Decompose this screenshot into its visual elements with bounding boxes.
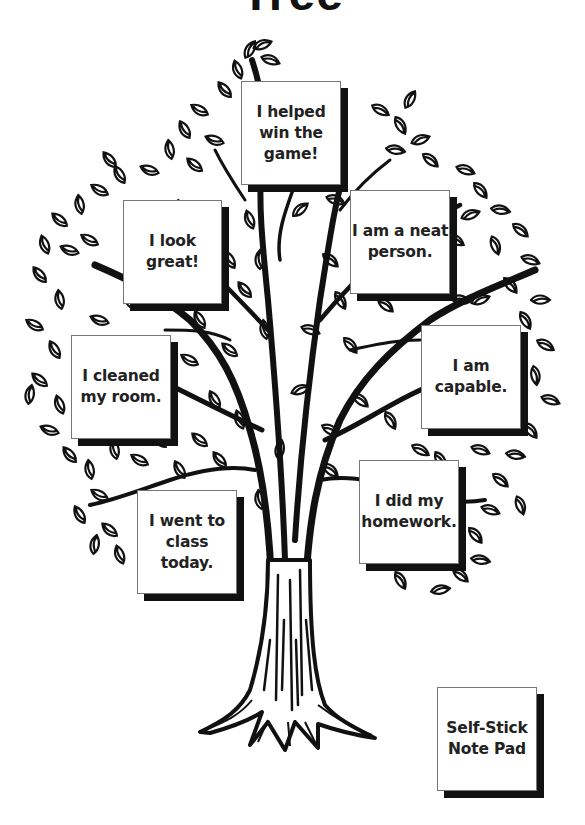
leaf-icon xyxy=(189,102,210,119)
leaf-icon xyxy=(402,89,419,110)
leaf-icon xyxy=(392,570,409,591)
leaf-icon xyxy=(74,195,85,215)
leaf-icon xyxy=(79,232,100,249)
leaf-icon xyxy=(260,53,281,67)
leaf-icon xyxy=(511,221,531,240)
leaf-icon xyxy=(230,59,244,80)
leaf-icon xyxy=(221,249,238,270)
leaf-icon xyxy=(52,394,66,415)
sticky-note-text: I am a neat person. xyxy=(352,221,448,263)
leaf-icon xyxy=(410,132,431,146)
leaf-icon xyxy=(39,423,60,437)
leaf-icon xyxy=(471,180,490,200)
sticky-note-look-great: I look great! xyxy=(123,200,222,304)
leaf-icon xyxy=(46,339,63,360)
sticky-note-went-to-class: I went to class today. xyxy=(137,490,237,594)
leaf-icon xyxy=(184,156,204,175)
leaf-icon xyxy=(392,115,409,136)
leaf-icon xyxy=(71,504,88,525)
leaf-icon xyxy=(100,150,119,170)
leaf-icon xyxy=(505,449,525,460)
leaf-icon xyxy=(470,443,491,457)
leaf-icon xyxy=(215,80,234,100)
leaf-icon xyxy=(54,290,65,310)
leaf-icon xyxy=(490,204,510,215)
sticky-note-text: I am capable. xyxy=(435,356,507,398)
leaf-icon xyxy=(204,133,225,147)
leaf-icon xyxy=(520,253,541,267)
leaf-icon xyxy=(540,393,561,407)
sticky-note-cleaned-room: I cleaned my room. xyxy=(71,335,171,439)
leaf-icon xyxy=(24,384,35,404)
leaf-icon xyxy=(49,211,69,230)
leaf-icon xyxy=(89,182,110,199)
self-stick-note-pad-legend: Self-Stick Note Pad xyxy=(437,687,537,791)
leaf-icon xyxy=(164,140,175,160)
leaf-icon xyxy=(341,335,360,355)
leaf-icon xyxy=(491,471,511,490)
leaf-icon xyxy=(89,313,110,327)
leaf-icon xyxy=(521,420,540,440)
sticky-note-text: I went to class today. xyxy=(138,511,236,574)
leaf-icon xyxy=(376,296,396,315)
leaf-icon xyxy=(242,209,256,230)
leaf-icon xyxy=(513,495,527,516)
leaf-icon xyxy=(129,452,150,469)
leaf-icon xyxy=(179,352,200,369)
leaf-icon xyxy=(410,442,431,459)
leaf-icon xyxy=(99,521,119,540)
leaf-icon xyxy=(290,200,310,219)
leaf-icon xyxy=(252,37,273,51)
sticky-note-helped-win: I helped win the game! xyxy=(241,81,341,185)
leaf-icon xyxy=(60,445,79,465)
leaf-icon xyxy=(59,243,80,257)
leaf-icon xyxy=(112,544,126,565)
leaf-icon xyxy=(488,235,502,256)
leaf-icon xyxy=(24,317,45,334)
leaf-icon xyxy=(470,554,490,565)
sticky-note-homework: I did my homework. xyxy=(359,460,459,564)
leaf-icon xyxy=(535,337,556,354)
leaf-icon xyxy=(455,163,476,177)
leaf-icon xyxy=(460,207,481,221)
leaf-icon xyxy=(139,163,160,177)
sticky-note-text: I helped win the game! xyxy=(256,102,325,165)
leaf-icon xyxy=(531,296,550,304)
leaf-icon xyxy=(421,151,441,170)
sticky-note-text: I cleaned my room. xyxy=(80,366,161,408)
leaf-icon xyxy=(89,534,100,554)
leaf-icon xyxy=(382,410,399,431)
leaf-icon xyxy=(385,144,405,155)
leaf-icon xyxy=(176,119,193,140)
leaf-icon xyxy=(480,503,501,517)
leaf-icon xyxy=(430,584,450,595)
leaf-icon xyxy=(466,525,485,545)
leaf-icon xyxy=(30,265,49,285)
leaf-icon xyxy=(370,102,391,119)
leaf-icon xyxy=(530,365,541,385)
leaf-icon xyxy=(189,431,209,450)
leaf-icon xyxy=(109,440,120,460)
leaf-icon xyxy=(37,234,51,255)
sticky-note-capable: I am capable. xyxy=(421,325,521,429)
leaf-icon xyxy=(451,566,471,585)
leaf-icon xyxy=(84,460,95,480)
sticky-note-text: I did my homework. xyxy=(361,491,456,533)
sticky-note-neat-person: I am a neat person. xyxy=(350,190,450,294)
legend-label: Self-Stick Note Pad xyxy=(446,718,527,760)
sticky-note-text: I look great! xyxy=(146,231,199,273)
